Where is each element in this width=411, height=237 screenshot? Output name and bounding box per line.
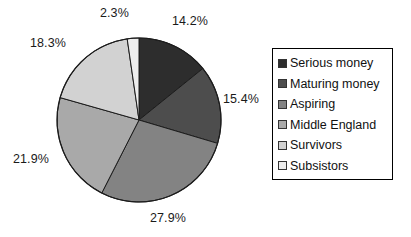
pie-value-label-aspiring: 27.9% <box>150 211 186 225</box>
legend-swatch-survivors <box>278 141 287 150</box>
pie-value-label-subsistors: 2.3% <box>100 6 129 20</box>
pie-value-label-middle-england: 21.9% <box>13 152 49 166</box>
pie-slice-group <box>57 38 221 202</box>
legend-label-aspiring: Aspiring <box>290 98 335 111</box>
legend-swatch-maturing-money <box>278 79 287 88</box>
legend-item-subsistors[interactable]: Subsistors <box>278 156 392 177</box>
legend-item-maturing-money[interactable]: Maturing money <box>278 74 392 95</box>
legend-swatch-serious-money <box>278 59 287 68</box>
pie-value-label-maturing-money: 15.4% <box>223 92 259 106</box>
legend-label-survivors: Survivors <box>290 139 342 152</box>
pie-plot-area: 2.3% 14.2% 15.4% 27.9% 21.9% 18.3% <box>0 0 265 237</box>
pie-value-label-survivors: 18.3% <box>30 36 66 50</box>
legend-item-aspiring[interactable]: Aspiring <box>278 94 392 115</box>
legend-item-survivors[interactable]: Survivors <box>278 135 392 156</box>
legend-item-middle-england[interactable]: Middle England <box>278 115 392 136</box>
legend-label-middle-england: Middle England <box>290 119 376 132</box>
legend-item-serious-money[interactable]: Serious money <box>278 53 392 74</box>
pie-value-label-serious-money: 14.2% <box>172 14 208 28</box>
legend-swatch-subsistors <box>278 161 287 170</box>
legend-label-serious-money: Serious money <box>290 57 373 70</box>
legend-label-subsistors: Subsistors <box>290 160 348 173</box>
pie-chart-figure: 2.3% 14.2% 15.4% 27.9% 21.9% 18.3% Serio… <box>0 0 411 237</box>
chart-legend: Serious money Maturing money Aspiring Mi… <box>272 48 393 180</box>
legend-label-maturing-money: Maturing money <box>290 78 380 91</box>
legend-swatch-aspiring <box>278 100 287 109</box>
legend-swatch-middle-england <box>278 120 287 129</box>
